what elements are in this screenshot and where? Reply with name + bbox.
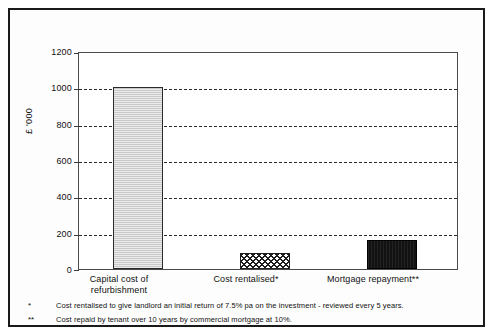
- bar-cost-rentalised[interactable]: [240, 253, 290, 269]
- y-tick-label-200: 200: [56, 230, 72, 239]
- y-tick-label-800: 800: [56, 121, 72, 130]
- y-tick-mark-800: [74, 126, 79, 127]
- y-tick-label-1000: 1000: [51, 84, 72, 93]
- x-tick-label-mortgage-repayment-line1: Mortgage repayment**: [306, 274, 440, 285]
- y-tick-mark-1000: [74, 89, 79, 90]
- bar-capital-cost-of-refurbishment[interactable]: [113, 87, 163, 269]
- y-axis-title: £ '000: [24, 108, 34, 134]
- bar-mortgage-repayment[interactable]: [367, 240, 417, 269]
- footnote-text-2: Cost repaid by tenant over 10 years by c…: [56, 315, 292, 325]
- y-axis-tick-labels: 1200 1000 800 600 400 200 0: [30, 52, 72, 270]
- y-tick-label-1200: 1200: [51, 48, 72, 57]
- y-tick-label-600: 600: [56, 157, 72, 166]
- footnote-row-2: ** Cost repaid by tenant over 10 years b…: [28, 315, 478, 325]
- chart-figure: 1200 1000 800 600 400 200 0 £ '000: [0, 0, 498, 336]
- y-tick-mark-400: [74, 198, 79, 199]
- x-tick-label-capital-cost-line2: refurbishment: [52, 285, 186, 296]
- footnote-text-1: Cost rentalised to give landlord an init…: [56, 301, 404, 311]
- footnote-marker-1: *: [28, 301, 56, 311]
- plot-area: [78, 52, 458, 270]
- x-tick-label-mortgage-repayment: Mortgage repayment**: [306, 274, 440, 285]
- y-tick-mark-600: [74, 162, 79, 163]
- figure-border: 1200 1000 800 600 400 200 0 £ '000: [8, 8, 485, 327]
- footnote-row-1: * Cost rentalised to give landlord an in…: [28, 301, 478, 311]
- y-tick-mark-0: [74, 270, 79, 271]
- x-tick-label-cost-rentalised-line1: Cost rentalised*: [179, 274, 313, 285]
- x-tick-label-capital-cost-line1: Capital cost of: [52, 274, 186, 285]
- footnotes-block: * Cost rentalised to give landlord an in…: [28, 301, 478, 329]
- y-tick-mark-1200: [74, 53, 79, 54]
- y-tick-mark-200: [74, 235, 79, 236]
- y-tick-label-400: 400: [56, 193, 72, 202]
- footnote-marker-2: **: [28, 315, 56, 325]
- x-tick-label-cost-rentalised: Cost rentalised*: [179, 274, 313, 285]
- x-tick-label-capital-cost: Capital cost of refurbishment: [52, 274, 186, 296]
